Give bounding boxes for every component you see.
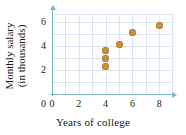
data-point (102, 63, 109, 70)
x-tick-label: 6 (124, 99, 140, 109)
gridline-horizontal (52, 70, 172, 71)
x-axis-line (50, 94, 172, 95)
y-axis-title: Monthly salary (in thousands) (3, 0, 27, 116)
gridline-vertical (172, 14, 173, 94)
y-tick-label: 2 (34, 65, 46, 75)
x-axis-title: Years of college (0, 116, 186, 128)
y-tick-label: 4 (34, 41, 46, 51)
data-point (102, 55, 109, 62)
scatter-plot: 0 2 4 6 8 0 2 4 6 Years of college Month… (0, 0, 186, 135)
gridline-horizontal (52, 34, 172, 35)
gridline-horizontal (52, 58, 172, 59)
plot-area (52, 14, 172, 94)
data-point (116, 41, 123, 48)
gridline-horizontal (52, 22, 172, 23)
y-axis-arrow-icon (50, 5, 56, 10)
y-axis-title-line1: Monthly salary (3, 0, 15, 116)
x-tick-label: 8 (151, 99, 167, 109)
y-tick-label: 6 (34, 17, 46, 27)
gridline-horizontal (52, 82, 172, 83)
x-tick-label: 4 (98, 99, 114, 109)
data-point (156, 22, 163, 29)
x-axis-arrow-icon (172, 92, 177, 98)
y-axis-title-line2: (in thousands) (15, 0, 27, 116)
x-tick-label: 2 (71, 99, 87, 109)
y-axis-line (52, 10, 53, 96)
gridline-horizontal (52, 14, 172, 15)
x-tick-label: 0 (44, 99, 60, 109)
y-tick-label: 0 (34, 99, 46, 109)
gridline-horizontal (52, 46, 172, 47)
